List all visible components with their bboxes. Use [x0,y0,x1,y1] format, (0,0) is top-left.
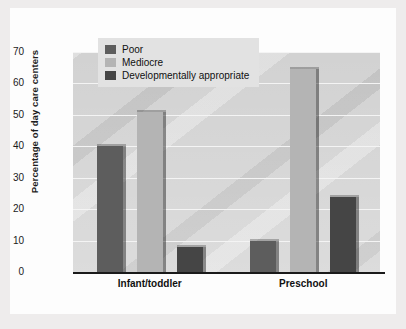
bar-shadow-edge [123,146,126,272]
bar-face [177,247,203,272]
bar-top-edge [330,195,359,197]
gridline [73,115,380,116]
bar-shadow-edge [316,69,319,272]
bar-face [290,69,316,272]
y-tick-label: 30 [0,172,24,183]
y-tick-label: 40 [0,140,24,151]
chart-page: Percentage of day care centers 010203040… [0,0,406,329]
y-tick-label: 10 [0,235,24,246]
bar-face [137,112,163,272]
legend-item-label: Developmentally appropriate [122,70,249,81]
legend-item[interactable]: Poor [105,43,249,56]
chart-panel: Percentage of day care centers 010203040… [10,8,396,314]
bar [137,112,163,272]
legend: PoorMediocreDevelopmentally appropriate [98,38,259,87]
bar [330,197,356,272]
bar-shadow-edge [356,197,359,272]
bar-face [330,197,356,272]
y-tick-label: 60 [0,77,24,88]
bar-face [250,241,276,272]
x-axis-line [73,272,385,274]
bar-top-edge [250,239,279,241]
bar-top-edge [137,110,166,112]
y-tick-label: 70 [0,46,24,57]
x-category-label: Preschool [227,278,381,289]
legend-swatch-icon [105,71,116,80]
bar-face [97,146,123,272]
y-tick-label: 50 [0,109,24,120]
legend-item-label: Poor [122,44,143,55]
bar-shadow-edge [203,247,206,272]
bar [250,241,276,272]
bar-shadow-edge [163,112,166,272]
bar [290,69,316,272]
bar-top-edge [97,144,126,146]
x-category-label: Infant/toddler [73,278,227,289]
legend-swatch-icon [105,58,116,67]
legend-item[interactable]: Developmentally appropriate [105,69,249,82]
y-axis-title: Percentage of day care centers [29,32,40,212]
bar-shadow-edge [276,241,279,272]
bar [97,146,123,272]
legend-swatch-icon [105,45,116,54]
y-tick-label: 0 [0,266,24,277]
legend-item-label: Mediocre [122,57,163,68]
bar-top-edge [177,245,206,247]
y-tick-label: 20 [0,203,24,214]
legend-item[interactable]: Mediocre [105,56,249,69]
bar [177,247,203,272]
bar-top-edge [290,67,319,69]
